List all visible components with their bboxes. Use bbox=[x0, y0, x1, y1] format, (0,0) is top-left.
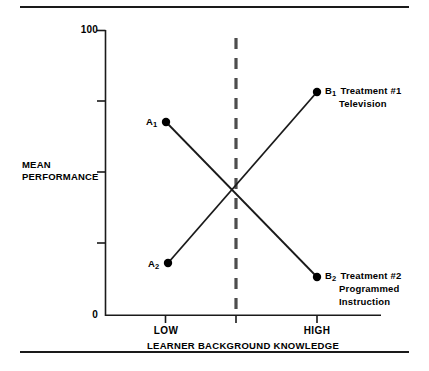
point-label-a1-letter: A bbox=[146, 116, 153, 127]
series-label-treatment-2: B2Treatment #2ProgrammedInstruction bbox=[325, 270, 401, 308]
point-label-a1-subscript: 1 bbox=[153, 120, 157, 129]
x-axis-title: LEARNER BACKGROUND KNOWLEDGE bbox=[105, 340, 381, 351]
series-label-b1-letter: B bbox=[325, 85, 332, 96]
x-tick-label-high: HIGH bbox=[291, 325, 343, 337]
data-point-b1 bbox=[313, 88, 321, 96]
series-label-b2-subscript: 2 bbox=[332, 274, 336, 283]
y-axis-title: MEANPERFORMANCE bbox=[22, 159, 99, 184]
y-axis-max-label: 100 bbox=[72, 24, 98, 36]
x-tick-label-low: LOW bbox=[140, 325, 192, 337]
y-axis-min-label: 0 bbox=[72, 309, 98, 321]
point-label-a1: A1 bbox=[146, 116, 157, 128]
data-point-b2 bbox=[313, 273, 321, 281]
y-axis-title-line-1: MEAN bbox=[22, 159, 99, 171]
point-label-a2-subscript: 2 bbox=[155, 262, 159, 271]
series-label-b2-letter: B bbox=[325, 270, 332, 281]
series-label-b1-line-2: Television bbox=[339, 98, 401, 111]
series-label-treatment-1: B1Treatment #1Television bbox=[325, 85, 401, 111]
series-label-b1-line-1: Treatment #1 bbox=[340, 85, 401, 96]
series-label-b2-line-3: Instruction bbox=[339, 296, 401, 309]
chart-plot-area bbox=[0, 0, 429, 371]
series-label-b2-line-1: Treatment #2 bbox=[340, 270, 401, 281]
point-label-a2-letter: A bbox=[148, 258, 155, 269]
point-label-a2: A2 bbox=[148, 258, 159, 270]
figure-container: 100 0 MEANPERFORMANCE LOW HIGH LEARNER B… bbox=[0, 0, 429, 371]
series-label-b2-line-2: Programmed bbox=[339, 283, 401, 296]
series-line-treatment-1 bbox=[168, 92, 317, 263]
series-line-treatment-2 bbox=[166, 122, 317, 277]
data-point-a2 bbox=[164, 259, 172, 267]
y-axis-title-line-2: PERFORMANCE bbox=[22, 171, 99, 183]
data-point-a1 bbox=[162, 118, 170, 126]
series-label-b1-subscript: 1 bbox=[332, 89, 336, 98]
